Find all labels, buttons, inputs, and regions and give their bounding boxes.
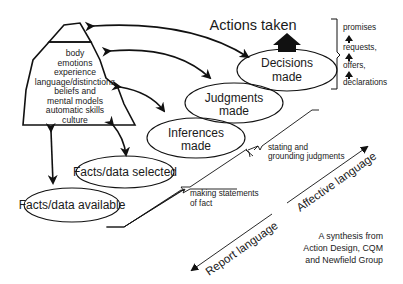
svg-text:stating and: stating and <box>268 143 309 152</box>
decisions-label: Decisions <box>261 56 313 70</box>
svg-text:mental models: mental models <box>47 96 103 106</box>
svg-text:and Newfield Group: and Newfield Group <box>305 255 383 265</box>
svg-text:A synthesis from: A synthesis from <box>318 231 383 241</box>
judgments-label: Judgments <box>205 91 264 105</box>
iceberg-factors: body emotions experience language/distin… <box>35 48 115 125</box>
svg-text:Action Design, CQM: Action Design, CQM <box>303 243 383 253</box>
svg-text:promises: promises <box>343 23 376 32</box>
svg-text:automatic skills: automatic skills <box>46 105 104 115</box>
svg-text:emotions: emotions <box>58 58 93 68</box>
grounding-judgments-text: stating and grounding judgments <box>268 143 344 161</box>
judgments-iceberg-arrow <box>110 50 210 78</box>
svg-text:beliefs and: beliefs and <box>54 86 96 96</box>
svg-text:grounding judgments: grounding judgments <box>268 152 344 161</box>
svg-text:declarations: declarations <box>343 78 387 87</box>
svg-text:language/distinctions: language/distinctions <box>35 77 115 87</box>
decisions-label-2: made <box>272 70 302 84</box>
credit-text: A synthesis from Action Design, CQM and … <box>303 231 383 265</box>
facts-available-label: Facts/data available <box>19 198 126 212</box>
ladder-of-inference-diagram: body emotions experience language/distin… <box>0 0 403 284</box>
svg-text:requests,: requests, <box>343 43 377 52</box>
svg-text:making statements: making statements <box>190 189 259 198</box>
actions-taken-label: Actions taken <box>209 17 296 33</box>
facts-selected-label: Facts/data selected <box>73 165 177 179</box>
speech-acts-list: promises requests, offers, declarations <box>343 23 387 87</box>
small-up-arrow-icon <box>345 53 353 61</box>
facts-available-iceberg-arrow <box>51 131 53 183</box>
report-language-label: Report language <box>203 219 280 278</box>
svg-text:culture: culture <box>62 115 88 125</box>
svg-text:offers,: offers, <box>343 61 366 70</box>
statements-of-fact-text: making statements of fact <box>190 189 259 208</box>
svg-text:experience: experience <box>54 67 96 77</box>
facts-selected-iceberg-arrow <box>113 125 126 155</box>
svg-text:body: body <box>66 48 85 58</box>
small-up-arrow-icon <box>345 35 353 43</box>
judgments-label-2: made <box>219 104 249 118</box>
inferences-label-2: made <box>181 139 211 153</box>
inferences-label: Inferences <box>168 126 224 140</box>
svg-text:of fact: of fact <box>190 199 213 208</box>
